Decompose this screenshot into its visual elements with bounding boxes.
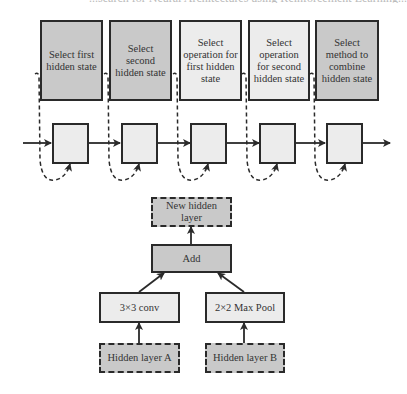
- add-node: Add: [151, 244, 232, 273]
- step-select-combine-method: Select method to combine hidden state: [315, 20, 379, 101]
- node-label: Hidden layer B: [213, 352, 277, 364]
- node-label: Hidden layer A: [107, 352, 171, 364]
- step-select-op-first: Select operation for first hidden state: [179, 20, 242, 101]
- step-label: Select second hidden state: [113, 43, 168, 79]
- step-select-first-hidden-state: Select first hidden state: [40, 20, 103, 101]
- step-select-second-hidden-state: Select second hidden state: [109, 20, 172, 101]
- hidden-layer-b-node: Hidden layer B: [205, 343, 285, 373]
- node-label: 3×3 conv: [120, 302, 159, 314]
- step-label: Select operation for first hidden state: [183, 37, 238, 85]
- step-select-op-second: Select operation for second hidden state: [248, 20, 310, 101]
- rnn-cell-1: [52, 123, 89, 164]
- rnn-cell-5: [326, 123, 363, 164]
- conv-3x3-node: 3×3 conv: [99, 292, 180, 323]
- hidden-layer-a-node: Hidden layer A: [99, 343, 180, 373]
- step-label: Select first hidden state: [44, 49, 99, 73]
- node-label: New hidden layer: [155, 200, 228, 224]
- step-label: Select method to combine hidden state: [319, 37, 375, 85]
- rnn-cell-4: [259, 123, 296, 164]
- step-label: Select operation for second hidden state: [252, 37, 306, 85]
- new-hidden-layer-node: New hidden layer: [151, 197, 232, 227]
- node-label: 2×2 Max Pool: [215, 302, 275, 314]
- rnn-cell-2: [121, 123, 158, 164]
- rnn-cell-3: [190, 123, 227, 164]
- max-pool-2x2-node: 2×2 Max Pool: [205, 292, 285, 323]
- node-label: Add: [182, 253, 200, 265]
